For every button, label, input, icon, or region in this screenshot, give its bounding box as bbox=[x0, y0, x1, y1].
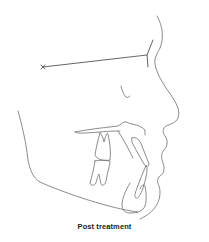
nasion-bracket bbox=[147, 40, 153, 67]
orbit bbox=[121, 86, 130, 97]
soft-tissue-profile bbox=[140, 16, 179, 219]
figure-caption: Post treatment bbox=[0, 222, 209, 231]
mandibular-molar bbox=[90, 160, 110, 185]
tracing-canvas bbox=[0, 0, 209, 242]
sella-nasion-line bbox=[43, 55, 147, 67]
mandibular-incisor bbox=[135, 166, 147, 198]
symphysis bbox=[122, 183, 146, 213]
maxillary-incisor bbox=[132, 137, 149, 166]
maxillary-molar bbox=[95, 133, 110, 160]
posterior-maxilla bbox=[118, 131, 133, 158]
palatal-plane bbox=[75, 122, 145, 135]
mandible-outline bbox=[18, 111, 138, 212]
cephalometric-figure: Post treatment bbox=[0, 0, 209, 242]
